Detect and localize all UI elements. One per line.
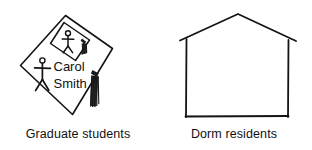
caption-graduate-students: Graduate students [0, 126, 156, 142]
badge-name-line-1: Carol [54, 59, 85, 74]
badge-name-line-2: Smith [54, 76, 87, 91]
panel-graduate-students: Carol Smith Graduate students [0, 0, 156, 150]
badge-name: Carol Smith [54, 59, 87, 91]
inner-tassel-icon [81, 39, 87, 55]
caption-dorm-residents: Dorm residents [156, 126, 312, 142]
dorm-residents-illustration [156, 0, 312, 128]
panel-dorm-residents: Dorm residents [156, 0, 312, 150]
inner-stick-figure-icon [62, 31, 74, 53]
tassel-icon [90, 70, 99, 107]
figure-root: Carol Smith Graduate students [0, 0, 312, 150]
house-outline-icon [180, 14, 296, 117]
graduate-students-illustration: Carol Smith [0, 0, 156, 128]
